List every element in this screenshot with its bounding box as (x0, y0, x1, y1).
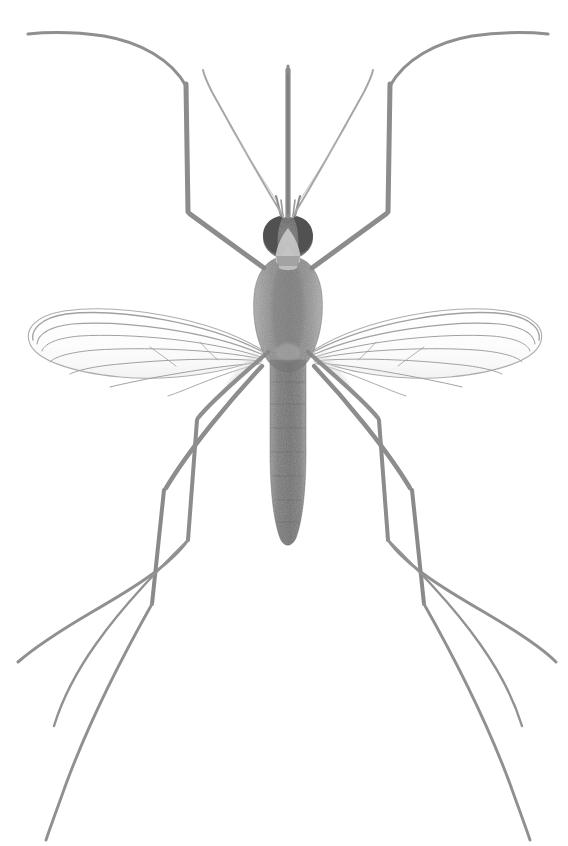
mosquito-illustration (0, 0, 568, 846)
specimen-plate: Mosquito, dorsal view (0, 0, 568, 846)
